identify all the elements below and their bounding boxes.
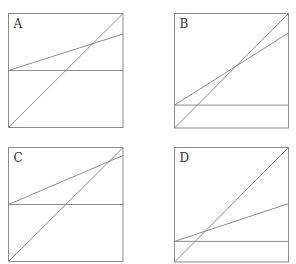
panel-b: B — [175, 14, 289, 129]
panel-c: C — [9, 148, 124, 262]
panel-a: A — [9, 14, 124, 128]
diagonal-line — [175, 148, 289, 263]
slanted-line — [175, 33, 289, 105]
panel-d: D — [175, 148, 289, 263]
panel-label: A — [13, 17, 23, 31]
diagonal-line — [175, 14, 289, 129]
slanted-line — [9, 34, 124, 70]
slanted-line — [9, 155, 124, 204]
panel-label: D — [180, 151, 190, 165]
slanted-line — [175, 204, 289, 242]
four-panel-figure: ABCD — [0, 0, 296, 264]
panel-label: C — [14, 151, 23, 165]
panel-label: B — [180, 17, 189, 31]
